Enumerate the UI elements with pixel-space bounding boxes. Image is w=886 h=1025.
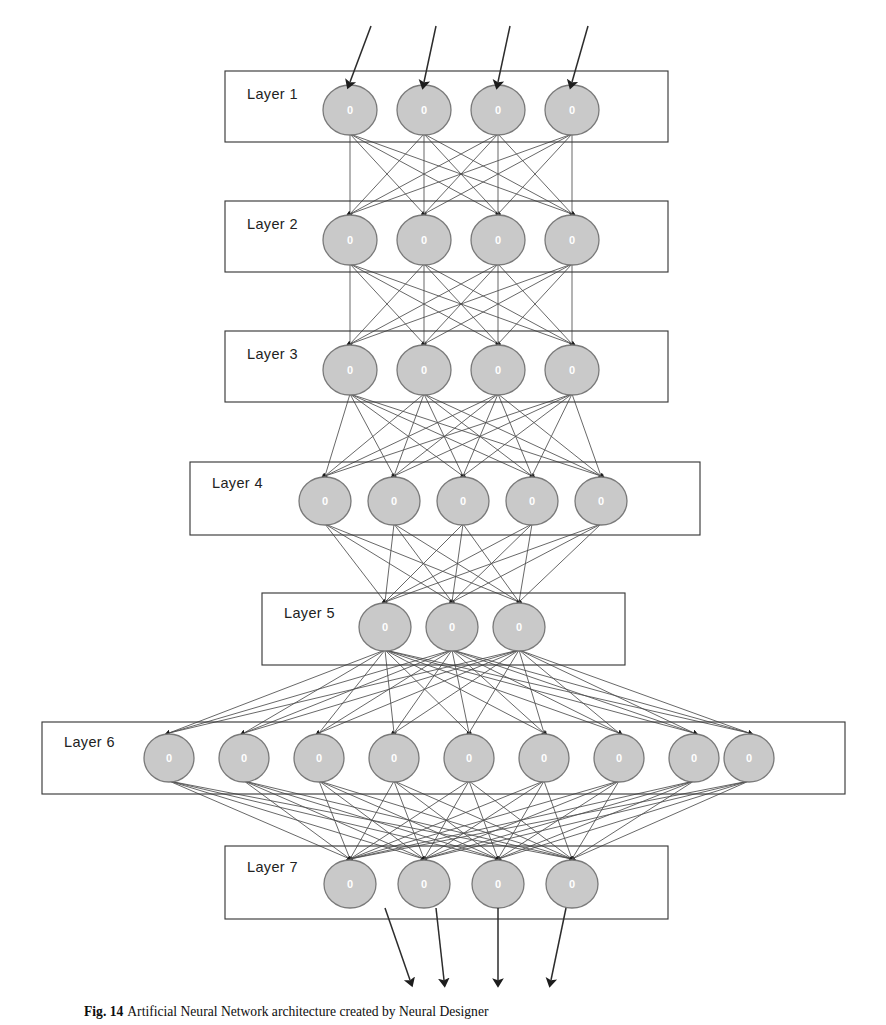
figure-number: Fig. 14: [84, 1004, 123, 1019]
connection: [519, 650, 749, 733]
neuron-label: 0: [495, 878, 501, 890]
connection: [244, 650, 519, 733]
neuron-label: 0: [391, 495, 397, 507]
neuron-label: 0: [316, 752, 322, 764]
connection: [385, 650, 749, 733]
connection: [325, 524, 519, 602]
figure-caption: Fig. 14Artificial Neural Network archite…: [84, 1003, 824, 1020]
neuron-label: 0: [569, 234, 575, 246]
neuron-label: 0: [421, 878, 427, 890]
figure-root: 000000000000000000000000000000000 Layer …: [0, 0, 886, 1025]
neuron-label: 0: [449, 621, 455, 633]
neuron-label: 0: [569, 878, 575, 890]
neuron-label: 0: [516, 621, 522, 633]
connection: [325, 394, 498, 476]
neuron-label: 0: [495, 104, 501, 116]
connection: [325, 394, 572, 476]
neuron-label: 0: [691, 752, 697, 764]
neuron-label: 0: [241, 752, 247, 764]
neuron-label: 0: [391, 752, 397, 764]
connection: [498, 394, 532, 476]
connection: [452, 524, 463, 602]
neuron-label: 0: [421, 104, 427, 116]
connection: [572, 781, 749, 859]
layer-label-7: Layer 7: [247, 859, 298, 875]
connection: [319, 650, 452, 733]
connection: [325, 524, 452, 602]
connection: [424, 394, 601, 476]
neuron-label: 0: [166, 752, 172, 764]
connection: [452, 524, 601, 602]
connection: [169, 650, 385, 733]
neuron-label: 0: [746, 752, 752, 764]
connection: [385, 524, 601, 602]
neuron-label: 0: [495, 364, 501, 376]
neuron-label: 0: [466, 752, 472, 764]
connection: [169, 650, 452, 733]
neuron-label: 0: [347, 878, 353, 890]
neuron-label: 0: [569, 364, 575, 376]
neuron-label: 0: [616, 752, 622, 764]
neuron-label: 0: [322, 495, 328, 507]
figure-caption-text: Artificial Neural Network architecture c…: [127, 1004, 488, 1019]
connection: [394, 524, 452, 602]
layer-label-1: Layer 1: [247, 86, 298, 102]
connection: [385, 524, 394, 602]
connection: [424, 781, 749, 859]
connection: [519, 650, 619, 733]
input-arrow-4: [572, 26, 588, 82]
neuron-label: 0: [347, 234, 353, 246]
connection: [244, 650, 385, 733]
connection: [532, 394, 572, 476]
input-arrow-2: [424, 26, 436, 82]
connection: [394, 650, 452, 733]
connection: [463, 394, 498, 476]
connection: [498, 781, 749, 859]
connection: [394, 524, 519, 602]
connection: [519, 650, 694, 733]
input-arrow-3: [498, 26, 510, 82]
connection: [385, 524, 463, 602]
neuron-label: 0: [529, 495, 535, 507]
connection: [498, 781, 694, 859]
neuron-label: 0: [421, 234, 427, 246]
neuron-label: 0: [382, 621, 388, 633]
connection: [350, 394, 532, 476]
connection: [325, 394, 350, 476]
connection: [452, 650, 749, 733]
connection: [572, 394, 601, 476]
neuron-label: 0: [569, 104, 575, 116]
connection: [385, 650, 394, 733]
neuron-label: 0: [541, 752, 547, 764]
neuron-label: 0: [460, 495, 466, 507]
neuron-label: 0: [598, 495, 604, 507]
neuron-label: 0: [421, 364, 427, 376]
neuron-label: 0: [347, 104, 353, 116]
layer-label-3: Layer 3: [247, 346, 298, 362]
neuron-label: 0: [347, 364, 353, 376]
connection: [385, 524, 532, 602]
input-arrow-1: [350, 26, 371, 82]
connection: [519, 524, 532, 602]
neural-network-diagram: 000000000000000000000000000000000 Layer …: [0, 0, 886, 1025]
connection: [424, 394, 463, 476]
layer-label-2: Layer 2: [247, 216, 298, 232]
connection: [519, 524, 601, 602]
connection: [463, 394, 572, 476]
neuron-label: 0: [495, 234, 501, 246]
layer-label-4: Layer 4: [212, 475, 263, 491]
layer-label-6: Layer 6: [64, 734, 115, 750]
connection: [424, 781, 694, 859]
layer-label-5: Layer 5: [284, 605, 335, 621]
